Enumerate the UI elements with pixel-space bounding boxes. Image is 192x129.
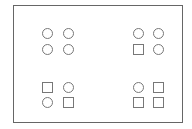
bottom-left-square-icon (42, 82, 53, 93)
bottom-right-circle-icon (133, 82, 144, 93)
bottom-right-square-icon (153, 97, 164, 108)
bottom-left-circle-icon (42, 97, 53, 108)
top-right-circle-icon (133, 28, 144, 39)
bottom-left-square-icon (63, 97, 74, 108)
top-left-circle-icon (42, 44, 53, 55)
bottom-left-circle-icon (63, 82, 74, 93)
top-right-circle-icon (153, 44, 164, 55)
top-left-circle-icon (63, 28, 74, 39)
bottom-right-square-icon (153, 82, 164, 93)
top-right-square-icon (133, 44, 144, 55)
top-right-circle-icon (153, 28, 164, 39)
top-left-circle-icon (42, 28, 53, 39)
top-left-circle-icon (63, 44, 74, 55)
bottom-right-square-icon (133, 97, 144, 108)
